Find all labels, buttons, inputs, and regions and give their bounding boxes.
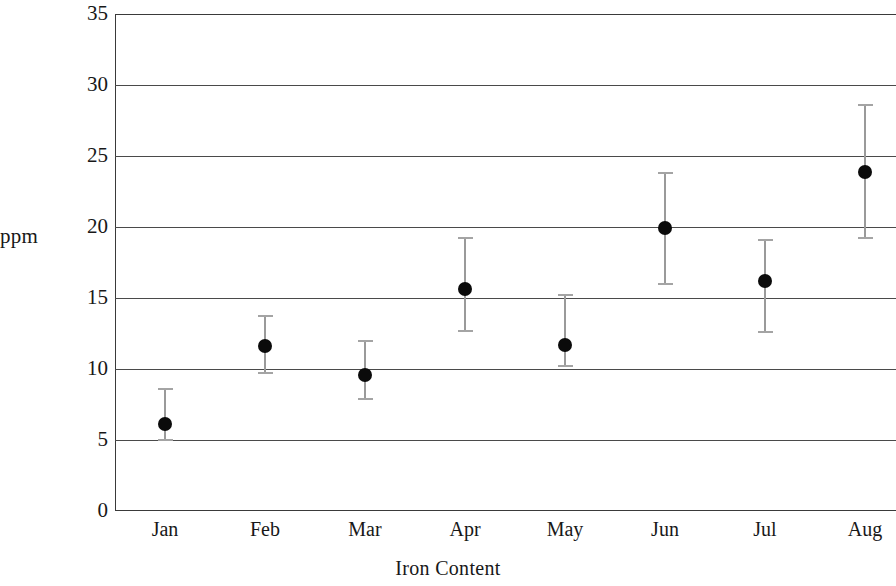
iron-content-chart: ppm 05101520253035 JanFebMarAprMayJunJul… <box>0 0 896 586</box>
error-bar <box>164 389 166 440</box>
x-tick-label: Mar <box>315 519 415 539</box>
data-point <box>458 282 472 296</box>
x-axis-tick-labels: JanFebMarAprMayJunJulAug <box>0 519 896 549</box>
error-bar-cap <box>758 239 773 241</box>
x-tick-label: Aug <box>815 519 896 539</box>
x-tick-label: Jan <box>115 519 215 539</box>
x-tick-label: Jul <box>715 519 815 539</box>
gridline <box>115 227 896 228</box>
plot-area <box>115 14 896 511</box>
plot-frame-left <box>115 14 116 511</box>
x-tick-label: Feb <box>215 519 315 539</box>
x-tick-label: May <box>515 519 615 539</box>
error-bar-cap <box>158 388 173 390</box>
error-bar-cap <box>758 331 773 333</box>
y-tick-label: 10 <box>62 358 108 379</box>
error-bar-cap <box>358 340 373 342</box>
data-point <box>758 274 772 288</box>
gridline <box>115 298 896 299</box>
y-tick-label: 20 <box>62 216 108 237</box>
y-tick-label: 35 <box>62 3 108 24</box>
data-point <box>358 368 372 382</box>
plot-frame-top <box>115 14 896 15</box>
y-tick-label: 15 <box>62 287 108 308</box>
x-tick-label: Apr <box>415 519 515 539</box>
error-bar-cap <box>658 172 673 174</box>
error-bar <box>564 295 566 366</box>
gridline <box>115 369 896 370</box>
gridline <box>115 156 896 157</box>
error-bar-cap <box>858 237 873 239</box>
error-bar-cap <box>258 315 273 317</box>
error-bar-cap <box>458 237 473 239</box>
gridline <box>115 440 896 441</box>
error-bar-cap <box>158 439 173 441</box>
x-tick-label: Jun <box>615 519 715 539</box>
error-bar-cap <box>358 398 373 400</box>
data-point <box>158 417 172 431</box>
plot-frame-bottom <box>115 510 896 511</box>
data-point <box>858 165 872 179</box>
y-tick-label: 0 <box>62 500 108 521</box>
x-axis-title: Iron Content <box>0 557 896 580</box>
y-tick-label: 25 <box>62 145 108 166</box>
error-bar-cap <box>458 330 473 332</box>
y-axis-tick-labels: 05101520253035 <box>62 0 108 586</box>
error-bar-cap <box>558 365 573 367</box>
error-bar-cap <box>558 294 573 296</box>
data-point <box>558 338 572 352</box>
data-point <box>658 221 672 235</box>
gridline <box>115 85 896 86</box>
error-bar-cap <box>858 104 873 106</box>
data-point <box>258 339 272 353</box>
y-tick-label: 5 <box>62 429 108 450</box>
y-axis-title: ppm <box>0 224 62 249</box>
y-tick-label: 30 <box>62 74 108 95</box>
error-bar-cap <box>258 372 273 374</box>
error-bar-cap <box>658 283 673 285</box>
